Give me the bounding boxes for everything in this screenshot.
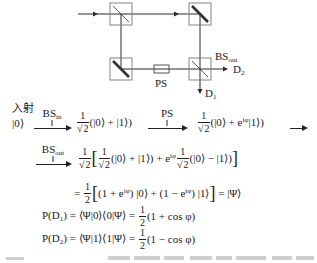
arrow-head-icon [223,67,228,72]
arrow-head-icon [93,12,98,17]
ps-label: PS [155,78,167,89]
bs-out-arrow: BSout [36,158,70,169]
state-after-bs-in: 1√2(|0⟩ + |1⟩) [76,111,132,134]
probability-d2: P(D2) = ⟨Ψ|1⟩⟨1|Ψ⟩ = 12(1 − cos φ) [42,228,195,251]
state-after-ps: 1√2(|0⟩ + eiφ|1⟩) [197,111,264,134]
psi-definition: = 12[(1 + eiφ) |0⟩ + (1 − eiφ) |1⟩] = |Ψ… [74,182,241,205]
ps-arrow-label: PS [161,108,173,119]
incident-label: 入射 [12,103,34,114]
state-after-bs-out: 1√2[1√2(|0⟩ + |1⟩) + eiφ1√2(|0⟩ − |1⟩)] [78,147,238,170]
arrow-head-icon [174,12,179,17]
start-state: |0⟩ [12,118,24,129]
d1-label: D1 [205,88,216,101]
d2-label: D2 [233,64,244,77]
ps-arrow: PS [148,122,186,133]
continue-arrow [290,122,306,133]
probability-d1: P(D1) = ⟨Ψ|0⟩⟨0|Ψ⟩ = 12(1 + cos φ) [42,205,195,228]
arrow-head-icon [198,89,203,94]
bs-in-arrow: BSin [34,122,70,133]
cut-off-caption-text [0,254,317,262]
